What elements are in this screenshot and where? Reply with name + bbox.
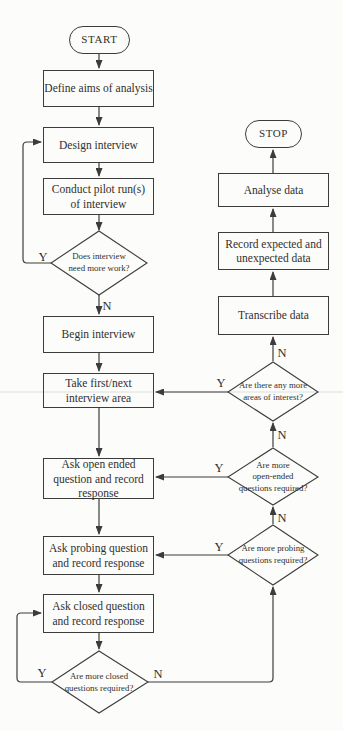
label-moreareas-yes: Y — [216, 376, 225, 391]
terminal-stop: STOP — [245, 120, 302, 148]
process-record-data: Record expected and unexpected data — [218, 232, 329, 270]
decision-more-open-label: Are more open-ended questions required? — [231, 458, 315, 496]
interview-process-flowchart: START STOP Define aims of analysis Desig… — [0, 0, 343, 731]
decision-does-need-work-label: Does interview need more work? — [54, 246, 144, 280]
label-moreareas-no: N — [277, 346, 286, 361]
process-transcribe-data: Transcribe data — [218, 296, 329, 335]
process-define-aims: Define aims of analysis — [43, 70, 154, 107]
process-design-interview: Design interview — [43, 127, 154, 163]
decision-more-probing-label: Are more probing questions required? — [226, 538, 320, 572]
process-take-area: Take first/next interview area — [43, 373, 154, 408]
process-ask-open: Ask open ended question and record respo… — [43, 458, 154, 499]
process-analyse-data: Analyse data — [218, 173, 329, 207]
label-moreclosed-no: N — [153, 667, 162, 682]
process-ask-probing: Ask probing question and record response — [43, 536, 154, 575]
label-moreprobing-no: N — [277, 511, 286, 526]
label-needwork-no: N — [102, 299, 111, 314]
edge-moreclosed-no-path — [148, 587, 273, 682]
process-conduct-pilot: Conduct pilot run(s) of interview — [43, 178, 154, 215]
label-moreprobing-yes: Y — [214, 540, 223, 555]
label-moreopen-no: N — [277, 428, 286, 443]
label-moreclosed-yes: Y — [37, 666, 46, 681]
process-begin-interview: Begin interview — [43, 316, 154, 353]
terminal-start: START — [69, 26, 130, 54]
decision-more-closed-label: Are more closed questions required? — [54, 666, 144, 700]
label-needwork-yes: Y — [38, 250, 47, 265]
decision-more-areas-label: Are there any more areas of interest? — [228, 375, 318, 409]
label-moreopen-yes: Y — [214, 461, 223, 476]
process-ask-closed: Ask closed question and record response — [43, 594, 154, 633]
